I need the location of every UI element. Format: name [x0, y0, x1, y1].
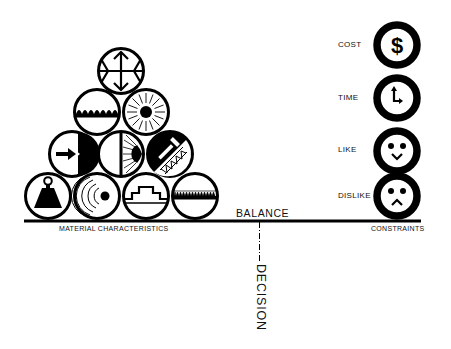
dollar-icon: $ [377, 25, 417, 65]
sound-waves-icon [71, 174, 119, 219]
happy-face-icon [377, 131, 417, 171]
light-refraction-icon [99, 132, 144, 177]
four-way-arrows-expansion-icon [99, 49, 144, 94]
material-characteristics-label: MATERIAL CHARACTERISTICS [59, 225, 169, 232]
clock-icon [377, 78, 417, 118]
diagram-canvas: $ [0, 0, 451, 349]
radiating-sun-icon [124, 90, 169, 135]
arrow-into-solid-icon [50, 132, 101, 177]
like-label: LIKE [338, 145, 357, 154]
serrated-texture-icon [173, 174, 218, 219]
time-label: TIME [338, 93, 358, 102]
dislike-label: DISLIKE [338, 191, 371, 200]
svg-text:$: $ [391, 33, 403, 58]
stepped-profile-icon [124, 174, 169, 219]
hammer-on-truss-icon [148, 132, 193, 177]
cost-label: COST [338, 40, 361, 49]
weight-icon [26, 174, 71, 219]
constraints-label: CONSTRAINTS [371, 225, 424, 232]
decision-label: DECISION [254, 264, 268, 331]
balance-line [24, 220, 421, 223]
wave-surface-icon [75, 90, 120, 135]
material-decision-diagram: $ MATERIAL CHARACTERISTICS BALANCE CONST… [0, 0, 451, 349]
sad-face-icon [377, 176, 417, 216]
balance-label: BALANCE [236, 207, 289, 219]
